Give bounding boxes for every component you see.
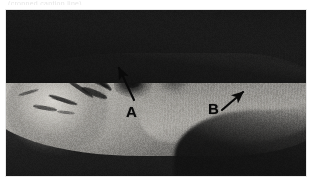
- annotation-label-b: B: [208, 101, 219, 116]
- arrow-b: [222, 92, 243, 110]
- annotation-label-a: A: [126, 104, 137, 119]
- figure-page: (cropped caption line): [0, 0, 314, 182]
- arrow-a: [119, 68, 134, 100]
- annotation-overlay: A B: [6, 10, 306, 176]
- annotation-arrows: [6, 10, 306, 176]
- figure-image-plate: A B: [6, 10, 306, 176]
- cropped-caption-remnant: (cropped caption line): [8, 0, 300, 5]
